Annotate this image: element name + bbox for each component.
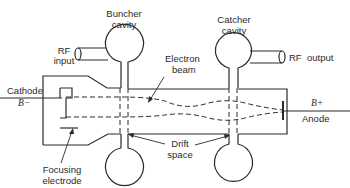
focusing-electrode-label-1: Focusing	[43, 164, 82, 175]
catcher-cavity-bottom	[215, 134, 253, 181]
catcher-cavity-label-2: cavity	[222, 25, 247, 36]
klystron-diagram: Buncher cavity Catcher cavity RF input R…	[0, 0, 350, 188]
buncher-cavity-bottom	[105, 134, 143, 186]
catcher-cavity-label-1: Catcher	[217, 14, 250, 25]
rf-output-coupler	[250, 51, 285, 63]
anode-label: Anode	[302, 113, 329, 124]
drift-space-label-1: Drift	[171, 138, 189, 149]
buncher-cavity-top	[105, 24, 143, 88]
rf-input-label-2: input	[54, 55, 75, 66]
rf-output-label: RF output	[289, 52, 334, 63]
electron-beam-label-1: Electron	[165, 53, 200, 64]
focusing-electrode-label-2: electrode	[42, 175, 81, 186]
drift-space-label-2: space	[167, 149, 192, 160]
tube-envelope	[43, 76, 287, 145]
rf-input-coupler	[75, 48, 108, 60]
catcher-cavity-top	[216, 33, 252, 88]
electron-beam	[66, 97, 283, 120]
cathode-voltage-label: B−	[18, 98, 30, 108]
buncher-cavity-label-2: cavity	[112, 19, 137, 30]
anode-voltage-label: B+	[311, 98, 323, 108]
drift-space-gap-lines	[120, 88, 237, 134]
electron-beam-label-2: beam	[172, 64, 196, 75]
cathode-label: Cathode	[7, 85, 43, 96]
leader-lines	[61, 77, 230, 163]
buncher-cavity-label-1: Buncher	[106, 8, 141, 19]
